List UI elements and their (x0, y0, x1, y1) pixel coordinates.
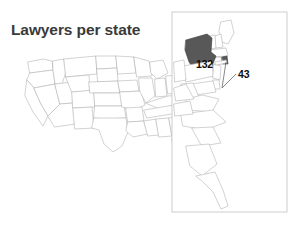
lawyers-per-state-figure: Lawyers per state (0, 0, 297, 225)
northeast-inset-panel (0, 0, 297, 225)
label-new-york-value: 132 (196, 58, 213, 70)
label-rhode-island-value: 43 (238, 68, 249, 80)
